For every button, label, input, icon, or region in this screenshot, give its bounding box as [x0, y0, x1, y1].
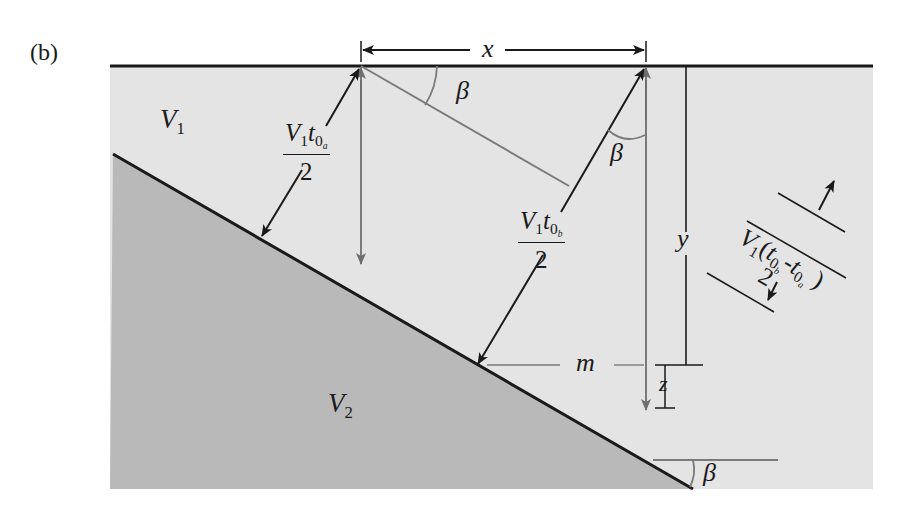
v2-subscript: 2: [345, 403, 353, 422]
ray-a-numerator: V1t0a: [283, 120, 330, 155]
v1-subscript: 1: [177, 119, 185, 138]
beta-dip-label: β: [703, 460, 716, 486]
m-label: m: [576, 350, 595, 376]
beta-ray-label: β: [610, 140, 623, 166]
ray-b-denominator: 2: [518, 243, 565, 272]
ray-a-distance-label: V1t0a 2: [283, 120, 330, 184]
v2-letter: V: [328, 388, 345, 418]
ray-b-distance-label: V1t0b 2: [518, 208, 565, 272]
v2-layer-label: V2: [328, 390, 353, 422]
v1-layer-label: V1: [160, 106, 185, 138]
seismic-dipping-layer-diagram: (b) x β β β V1 V2 V1t0a 2 V1t0b 2 y m z …: [0, 0, 903, 506]
ray-b-numerator: V1t0b: [518, 208, 565, 243]
ray-a-denominator: 2: [283, 155, 330, 184]
v1-letter: V: [160, 104, 177, 134]
beta-top-label: β: [456, 78, 469, 104]
y-label: y: [677, 226, 689, 252]
x-label: x: [482, 36, 494, 62]
z-label: z: [659, 373, 668, 395]
panel-label: (b): [30, 40, 58, 64]
